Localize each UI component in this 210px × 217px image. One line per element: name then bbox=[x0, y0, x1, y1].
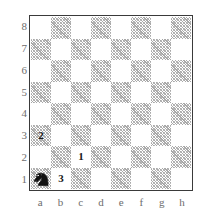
square-g8 bbox=[151, 17, 171, 39]
square-h8 bbox=[171, 17, 191, 39]
square-f5 bbox=[131, 82, 151, 104]
square-c2: 1 bbox=[71, 146, 91, 168]
square-d7 bbox=[91, 39, 111, 61]
square-g1 bbox=[151, 168, 171, 190]
square-a6 bbox=[31, 60, 51, 82]
board-frame: 213 bbox=[29, 15, 193, 191]
square-d2 bbox=[91, 146, 111, 168]
square-a4 bbox=[31, 103, 51, 125]
square-b5 bbox=[51, 82, 71, 104]
square-e8 bbox=[111, 17, 131, 39]
square-a5 bbox=[31, 82, 51, 104]
square-g4 bbox=[151, 103, 171, 125]
square-g6 bbox=[151, 60, 171, 82]
square-c3 bbox=[71, 125, 91, 147]
square-h3 bbox=[171, 125, 191, 147]
square-b1: 3 bbox=[51, 168, 71, 190]
square-f8 bbox=[131, 17, 151, 39]
square-b6 bbox=[51, 60, 71, 82]
square-f3 bbox=[131, 125, 151, 147]
move-marker-2: 2 bbox=[31, 125, 51, 147]
rank-label-6: 6 bbox=[12, 60, 28, 82]
square-h2 bbox=[171, 146, 191, 168]
file-label-g: g bbox=[152, 193, 172, 211]
square-c8 bbox=[71, 17, 91, 39]
square-h5 bbox=[171, 82, 191, 104]
rank-label-2: 2 bbox=[12, 147, 28, 169]
square-f6 bbox=[131, 60, 151, 82]
square-d5 bbox=[91, 82, 111, 104]
square-c1 bbox=[71, 168, 91, 190]
square-d6 bbox=[91, 60, 111, 82]
square-a8 bbox=[31, 17, 51, 39]
square-a3: 2 bbox=[31, 125, 51, 147]
rank-label-5: 5 bbox=[12, 81, 28, 103]
square-c4 bbox=[71, 103, 91, 125]
square-g3 bbox=[151, 125, 171, 147]
square-h4 bbox=[171, 103, 191, 125]
chessboard: 213 bbox=[31, 17, 191, 189]
square-h1 bbox=[171, 168, 191, 190]
file-label-b: b bbox=[50, 193, 70, 211]
square-g7 bbox=[151, 39, 171, 61]
square-e7 bbox=[111, 39, 131, 61]
rank-label-1: 1 bbox=[12, 168, 28, 190]
square-h7 bbox=[171, 39, 191, 61]
square-h6 bbox=[171, 60, 191, 82]
square-b2 bbox=[51, 146, 71, 168]
chess-diagram: 8 7 6 5 4 3 2 1 213 a b c d e f g h bbox=[0, 0, 210, 217]
square-e4 bbox=[111, 103, 131, 125]
move-marker-1: 1 bbox=[71, 146, 91, 168]
square-b8 bbox=[51, 17, 71, 39]
file-label-f: f bbox=[131, 193, 151, 211]
square-g5 bbox=[151, 82, 171, 104]
rank-labels: 8 7 6 5 4 3 2 1 bbox=[12, 16, 28, 190]
square-f1 bbox=[131, 168, 151, 190]
square-a7 bbox=[31, 39, 51, 61]
file-label-a: a bbox=[30, 193, 50, 211]
move-marker-3: 3 bbox=[51, 168, 71, 190]
square-e1 bbox=[111, 168, 131, 190]
file-label-e: e bbox=[111, 193, 131, 211]
square-d8 bbox=[91, 17, 111, 39]
rank-label-3: 3 bbox=[12, 125, 28, 147]
square-e6 bbox=[111, 60, 131, 82]
square-f4 bbox=[131, 103, 151, 125]
file-labels: a b c d e f g h bbox=[30, 193, 192, 211]
rank-label-8: 8 bbox=[12, 16, 28, 38]
square-f7 bbox=[131, 39, 151, 61]
square-d3 bbox=[91, 125, 111, 147]
square-a1 bbox=[31, 168, 51, 190]
square-c5 bbox=[71, 82, 91, 104]
square-b3 bbox=[51, 125, 71, 147]
square-c6 bbox=[71, 60, 91, 82]
square-d1 bbox=[91, 168, 111, 190]
square-a2 bbox=[31, 146, 51, 168]
file-label-d: d bbox=[91, 193, 111, 211]
square-e3 bbox=[111, 125, 131, 147]
square-d4 bbox=[91, 103, 111, 125]
square-b4 bbox=[51, 103, 71, 125]
square-g2 bbox=[151, 146, 171, 168]
rank-label-7: 7 bbox=[12, 38, 28, 60]
square-e2 bbox=[111, 146, 131, 168]
square-b7 bbox=[51, 39, 71, 61]
black-knight-icon bbox=[31, 168, 51, 190]
file-label-h: h bbox=[172, 193, 192, 211]
square-e5 bbox=[111, 82, 131, 104]
square-f2 bbox=[131, 146, 151, 168]
rank-label-4: 4 bbox=[12, 103, 28, 125]
file-label-c: c bbox=[71, 193, 91, 211]
square-c7 bbox=[71, 39, 91, 61]
